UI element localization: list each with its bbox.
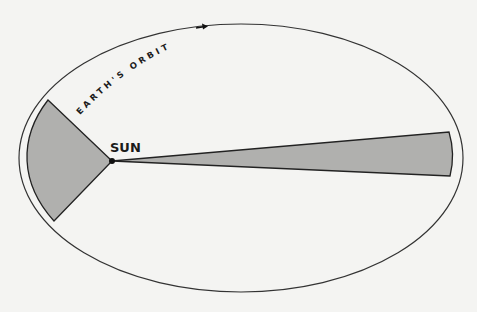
sun-dot [109, 158, 115, 164]
near-sun-sector [27, 100, 112, 221]
far-sun-sector [112, 132, 453, 176]
orbit-label: EARTH'S ORBIT [74, 40, 172, 116]
kepler-second-law-diagram: SUN EARTH'S ORBIT [0, 0, 477, 312]
sun-label: SUN [110, 140, 141, 155]
